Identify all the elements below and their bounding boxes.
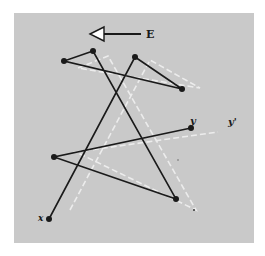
ghost-trajectory [70,56,218,210]
point-p6 [51,154,57,160]
point-x [46,216,52,222]
speck [193,209,195,211]
point-p1 [132,54,138,60]
label-y-prime: y' [228,117,237,127]
point-p4 [90,48,96,54]
point-p3 [61,58,67,64]
speck [177,159,178,160]
label-x: x [38,214,43,223]
point-p5 [173,196,179,202]
label-y: y [190,116,196,126]
point-p2 [179,86,185,92]
arrow-label-e: E [146,29,154,40]
east-arrow-icon [90,27,141,41]
